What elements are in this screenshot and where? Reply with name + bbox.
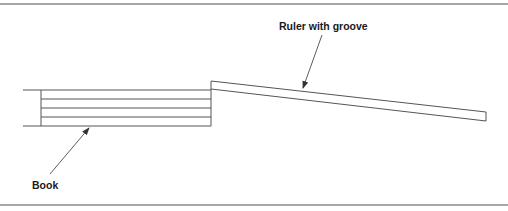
ruler-label: Ruler with groove (279, 21, 368, 32)
diagram-canvas: Ruler with groove Book (0, 0, 508, 211)
book-stack (23, 81, 211, 126)
book-label: Book (32, 180, 58, 191)
ruler-bottom-edge (211, 89, 486, 121)
ruler-with-groove (211, 81, 486, 121)
ruler-pointer-arrow (303, 35, 322, 88)
diagram-svg (0, 0, 508, 211)
ruler-top-edge (211, 81, 486, 112)
book-pointer-arrow (50, 128, 89, 174)
